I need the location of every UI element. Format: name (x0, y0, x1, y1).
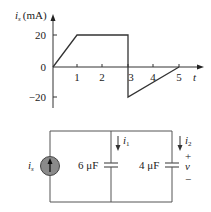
x-tick-label: 4 (150, 71, 156, 83)
i2-label: i2 (185, 134, 192, 148)
y-axis-arrow-icon (51, 14, 56, 21)
capacitor-6uF-label: 6 μF (78, 159, 98, 171)
x-axis-label: t (193, 71, 197, 83)
arrow-down-icon (116, 145, 121, 151)
i1-label: i1 (123, 134, 130, 148)
voltage-label: v (185, 160, 190, 172)
current-source (41, 157, 60, 176)
x-tick-label: 1 (74, 71, 80, 83)
x-tick-label: 2 (99, 71, 105, 83)
y-tick-label: −20 (29, 91, 47, 103)
waveform-line (53, 35, 179, 97)
y-axis-label: is(mA) (15, 9, 47, 23)
figure: is(mA) 20 0 −20 1 2 3 4 5 t is 6 μF (0, 0, 211, 212)
arrow-down-icon (178, 145, 183, 151)
minus-sign: − (185, 173, 191, 185)
x-tick-label: 5 (176, 71, 182, 83)
y-tick-label: 0 (41, 61, 47, 73)
y-tick-label: 20 (35, 29, 47, 41)
current-waveform-graph: is(mA) 20 0 −20 1 2 3 4 5 t (15, 9, 204, 108)
circuit-diagram: is 6 μF i1 4 μF i2 + v − (28, 131, 192, 202)
x-tick-label: 3 (128, 71, 134, 83)
source-label: is (28, 159, 34, 173)
capacitor-4uF-label: 4 μF (139, 159, 159, 171)
x-axis-arrow-icon (197, 65, 204, 70)
